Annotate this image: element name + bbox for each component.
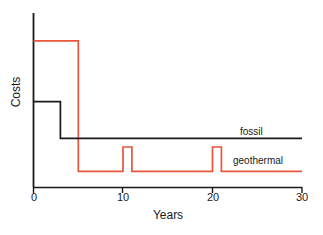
x-axis-title: Years (128, 208, 208, 222)
x-tick-label-20: 20 (198, 191, 228, 203)
x-tick-label-0: 0 (19, 191, 49, 203)
series-label-geothermal: geothermal (233, 155, 283, 166)
y-axis-title: Costs (9, 62, 23, 122)
series-line-geothermal (34, 41, 303, 172)
x-tick-label-30: 30 (287, 191, 317, 203)
series-label-fossil: fossil (240, 126, 263, 137)
x-tick-label-10: 10 (108, 191, 138, 203)
cost-comparison-chart: 0 10 20 30 Years Costs fossil geothermal (0, 0, 323, 235)
